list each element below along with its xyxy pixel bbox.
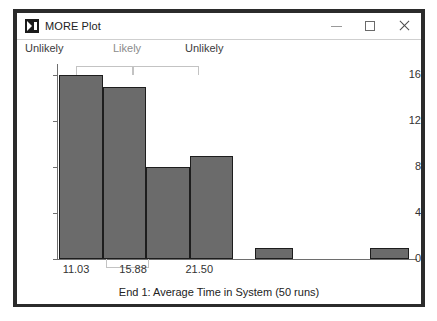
y-axis-line (57, 64, 58, 259)
more-plot-window: MORE Plot Unlikely Likely Unlikely 04812… (14, 10, 424, 306)
y-tick-label: 4 (387, 206, 421, 218)
histogram-bar (370, 248, 409, 259)
region-label-unlikely-right: Unlikely (185, 42, 224, 54)
title-bar: MORE Plot (17, 13, 421, 40)
close-icon (398, 20, 410, 32)
x-tick-label: 11.03 (63, 263, 90, 275)
maximize-button[interactable] (353, 13, 387, 39)
x-tick-label: 15.88 (119, 263, 147, 275)
y-tick-mark (53, 121, 58, 122)
y-tick-mark (53, 213, 58, 214)
y-tick-mark (53, 75, 58, 76)
region-label-unlikely-left: Unlikely (25, 42, 64, 54)
more-plot-app-icon (25, 19, 39, 33)
histogram-bar (255, 248, 294, 259)
minimize-button[interactable] (319, 13, 353, 39)
window-title: MORE Plot (45, 20, 101, 32)
x-tick-label: 21.50 (185, 263, 213, 275)
window-controls (319, 13, 421, 39)
histogram-plot: 0481216 11.0315.8821.50 (17, 58, 421, 294)
unlikely-range-upper (133, 66, 199, 75)
histogram-bar (190, 156, 234, 259)
histogram-bar (103, 87, 147, 259)
y-tick-mark (53, 259, 58, 260)
maximize-icon (365, 21, 375, 31)
y-tick-mark (53, 167, 58, 168)
histogram-bar (146, 167, 190, 259)
likely-range-upper (76, 66, 133, 75)
minimize-icon (331, 26, 342, 27)
region-label-likely: Likely (113, 42, 141, 54)
y-tick-label: 8 (387, 160, 421, 172)
close-button[interactable] (387, 13, 421, 39)
y-tick-label: 12 (387, 114, 421, 126)
histogram-bar (59, 75, 103, 259)
y-tick-label: 16 (387, 68, 421, 80)
client-area: Unlikely Likely Unlikely 0481216 11.0315… (17, 40, 421, 304)
x-axis-title: End 1: Average Time in System (50 runs) (17, 286, 421, 298)
